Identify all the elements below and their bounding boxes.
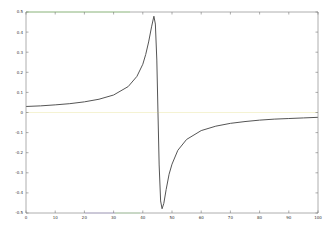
y-tick-label: 0.5 — [17, 9, 24, 14]
x-tick-label: 100 — [314, 215, 322, 220]
y-tick-label: 0 — [20, 110, 23, 115]
y-tick-label: 0.2 — [17, 70, 24, 75]
x-tick-label: 40 — [140, 215, 146, 220]
y-tick-label: 0.3 — [17, 50, 24, 55]
y-tick-label: -0.5 — [15, 210, 23, 215]
x-tick-label: 60 — [199, 215, 205, 220]
y-tick-label: -0.4 — [15, 190, 23, 195]
y-tick-label: -0.3 — [15, 170, 23, 175]
x-tick-label: 20 — [82, 215, 88, 220]
x-tick-label: 0 — [25, 215, 28, 220]
y-tick-label: 0.1 — [17, 90, 24, 95]
y-tick-label: -0.1 — [15, 130, 23, 135]
x-tick-label: 30 — [111, 215, 117, 220]
y-tick-label: 0.4 — [17, 30, 24, 35]
x-tick-label: 10 — [53, 215, 59, 220]
plot-area — [26, 12, 318, 213]
line-chart: 0102030405060708090100 0.50.40.30.20.10-… — [0, 0, 336, 233]
x-tick-label: 50 — [169, 215, 175, 220]
x-tick-label: 70 — [228, 215, 234, 220]
y-tick-label: -0.2 — [15, 150, 23, 155]
x-tick-label: 80 — [257, 215, 263, 220]
x-tick-label: 90 — [286, 215, 292, 220]
